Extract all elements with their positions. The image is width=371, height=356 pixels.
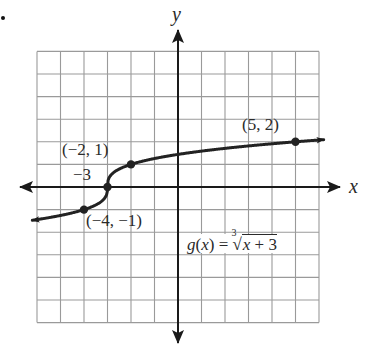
point-label-5-2: (5, 2)	[242, 116, 279, 133]
eq-radicand: x + 3	[242, 234, 277, 253]
point-marker	[127, 160, 135, 168]
point-marker	[103, 183, 111, 191]
point-label-neg3: −3	[73, 166, 91, 183]
point-label-neg4-neg1: (−4, −1)	[86, 212, 142, 229]
point-marker	[291, 138, 299, 146]
eq-var: x	[201, 235, 209, 254]
coordinate-plane	[0, 0, 371, 356]
graph-figure: y x (−2, 1) −3 (−4, −1) (5, 2) g(x) = 3√…	[0, 0, 371, 356]
marked-points	[80, 138, 300, 214]
function-equation: g(x) = 3√x + 3	[186, 234, 278, 253]
x-axis-label: x	[349, 176, 358, 196]
eq-equals: ) =	[209, 235, 233, 254]
eq-func-name: g	[187, 235, 196, 254]
axes	[20, 30, 340, 343]
eq-radical-sign: 3√	[232, 235, 241, 254]
point-label-neg2-1: (−2, 1)	[62, 141, 108, 158]
y-axis-label: y	[172, 4, 181, 24]
eq-radical-index: 3	[231, 228, 236, 238]
